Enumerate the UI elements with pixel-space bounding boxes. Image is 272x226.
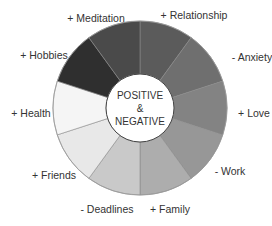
segment-label: + Family xyxy=(150,203,191,215)
center-label-line-1: POSITIVE xyxy=(117,90,163,101)
segment-label: - Deadlines xyxy=(80,203,133,215)
segment-label: + Relationship xyxy=(161,9,228,21)
center-label-line-2: & xyxy=(137,103,144,114)
segment-label: + Meditation xyxy=(67,12,125,24)
segment-label: + Friends xyxy=(32,169,76,181)
segment-label: + Love xyxy=(238,107,270,119)
segment-label: - Anxiety xyxy=(232,51,272,63)
center-label-line-3: NEGATIVE xyxy=(115,116,165,127)
positive-negative-wheel: POSITIVE & NEGATIVE + Relationship- Anxi… xyxy=(0,0,272,226)
segment-label: - Work xyxy=(215,165,246,177)
segment-label: + Health xyxy=(11,107,51,119)
segment-label: + Hobbies xyxy=(20,49,68,61)
